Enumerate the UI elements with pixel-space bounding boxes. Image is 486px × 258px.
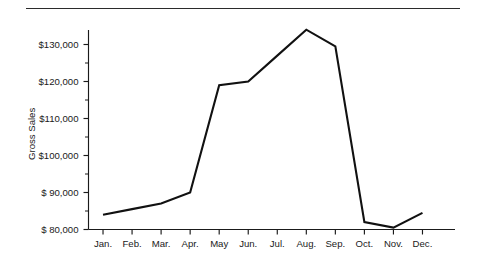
x-tick-label: Mar. <box>152 238 171 249</box>
x-tick-label: Nov. <box>384 238 403 249</box>
y-tick-label: $130,000 <box>38 39 78 50</box>
x-tick-label: Apr. <box>182 238 199 249</box>
x-tick-label: Jan. <box>94 238 112 249</box>
x-tick-label: Jun. <box>239 238 257 249</box>
x-tick-label: Jul. <box>270 238 285 249</box>
x-axis-tick-labels: Jan.Feb.Mar.Apr.MayJun.Jul.Aug.Sep.Oct.N… <box>94 238 432 249</box>
y-tick-label: $110,000 <box>39 113 78 124</box>
y-tick-label: $ 90,000 <box>41 187 78 198</box>
x-tick-label: Dec. <box>413 238 433 249</box>
x-axis-ticks <box>103 230 422 235</box>
y-axis-title: Gross Sales <box>26 108 37 160</box>
chart-figure: $ 80,000$ 90,000$100,000$110,000$120,000… <box>0 0 486 258</box>
data-series-line <box>103 30 422 228</box>
x-tick-label: May <box>210 238 228 249</box>
y-tick-label: $120,000 <box>38 76 78 87</box>
y-axis-tick-labels: $ 80,000$ 90,000$100,000$110,000$120,000… <box>38 39 78 235</box>
x-tick-label: Sep. <box>325 238 345 249</box>
x-tick-label: Oct. <box>356 238 374 249</box>
line-chart: $ 80,000$ 90,000$100,000$110,000$120,000… <box>0 0 486 258</box>
y-tick-label: $ 80,000 <box>41 224 78 235</box>
x-tick-label: Aug. <box>296 238 316 249</box>
x-tick-label: Feb. <box>122 238 141 249</box>
y-tick-label: $100,000 <box>38 150 78 161</box>
